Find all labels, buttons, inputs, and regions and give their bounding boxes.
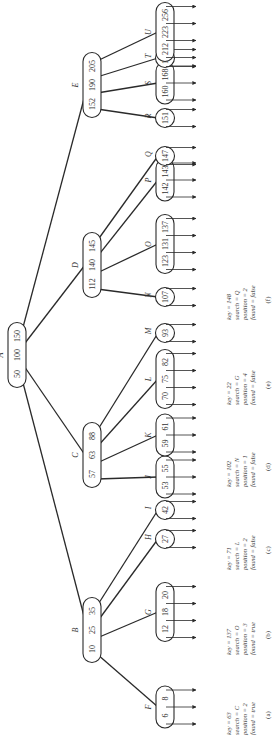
tree-edge	[97, 435, 158, 463]
tree-edge	[22, 95, 85, 331]
b-tree-diagram: 50100150A102535B576388C112140145D1521902…	[0, 0, 274, 747]
tree-edge	[97, 156, 158, 241]
tree-edge	[22, 379, 85, 620]
node-key: 10	[88, 645, 97, 653]
node-D: 112140145D	[71, 233, 101, 298]
node-O: 123131137O	[144, 215, 196, 274]
node-key: 25	[88, 626, 97, 634]
node-key: 93	[161, 329, 170, 337]
node-key: 18	[161, 608, 170, 616]
node-key: 35	[88, 607, 97, 615]
node-N: 107N	[144, 288, 196, 307]
node-key: 131	[161, 238, 170, 250]
node-label: E	[71, 82, 80, 88]
node-key: 137	[161, 221, 170, 233]
node-key: 20	[161, 591, 170, 599]
search-line: key = 71	[225, 547, 232, 570]
node-key: 42	[161, 506, 170, 514]
node-label: K	[144, 432, 153, 439]
node-key: 53	[161, 482, 170, 490]
search-result-b: key = 137search = Oposition = 3found = t…	[225, 622, 272, 656]
node-B: 102535B	[71, 598, 101, 663]
search-line: search = O	[233, 625, 240, 655]
node-key: 70	[161, 392, 170, 400]
node-C: 576388C	[71, 423, 101, 488]
node-key: 160	[161, 86, 170, 98]
node-label: D	[71, 262, 80, 269]
node-key: 82	[161, 358, 170, 366]
node-key: 50	[13, 370, 22, 378]
node-key: 151	[161, 112, 170, 124]
search-line: search = Q	[233, 290, 240, 320]
search-line: key = 22	[225, 381, 232, 405]
node-label: R	[144, 113, 153, 119]
node-key: 256	[161, 9, 170, 21]
node-key: 112	[88, 278, 97, 290]
node-label: J	[144, 475, 153, 479]
node-H: 27H	[144, 530, 196, 549]
search-line: position = 3	[241, 622, 248, 656]
search-line: search = C	[233, 705, 240, 735]
node-J: 5355J	[144, 456, 196, 498]
node-key: 145	[88, 240, 97, 252]
search-result-e: key = 22search = Gposition = 4found = fa…	[225, 370, 272, 406]
search-line: found = false	[249, 535, 256, 570]
node-key: 143	[161, 166, 170, 178]
search-line: search = N	[233, 457, 240, 487]
node-label: H	[144, 533, 153, 541]
node-K: 5961K	[144, 414, 196, 456]
node-key: 27	[161, 535, 170, 543]
search-result-c: key = 71search = Lposition = 2found = fa…	[225, 535, 272, 571]
search-annotations: key = 63search = Cposition = 2found = tr…	[225, 285, 272, 736]
node-label: B	[71, 627, 80, 632]
node-R: 151R	[144, 109, 196, 128]
tree-edge	[97, 58, 158, 77]
search-caption: (c)	[264, 545, 272, 553]
node-S: 160168S	[144, 62, 196, 104]
node-key: 61	[161, 423, 170, 431]
node-G: 121820G	[144, 583, 196, 642]
node-key: 6	[161, 714, 170, 718]
tree-edge	[97, 244, 158, 273]
node-key: 57	[88, 470, 97, 478]
node-key: 12	[161, 625, 170, 633]
search-line: found = true	[249, 622, 256, 655]
search-result-f: key = 148search = Qposition = 2found = f…	[225, 285, 272, 321]
node-A: 50100150A	[0, 323, 26, 388]
node-key: 212	[161, 43, 170, 55]
tree-nodes: 50100150A102535B576388C112140145D1521902…	[0, 3, 196, 729]
search-line: key = 102	[225, 460, 232, 487]
search-line: position = 2	[241, 702, 248, 736]
node-U: 212223256U	[144, 3, 196, 62]
tree-edge	[97, 654, 158, 707]
node-label: G	[144, 609, 153, 615]
tree-edge	[97, 612, 158, 638]
node-key: 8	[161, 697, 170, 701]
node-M: 93M	[144, 324, 196, 343]
node-label: M	[144, 326, 153, 335]
tree-edge	[22, 265, 85, 347]
search-caption: (d)	[264, 462, 272, 471]
search-line: found = false	[249, 370, 256, 405]
node-L: 707582L	[144, 350, 196, 409]
search-result-d: key = 102search = Nposition = 1found = f…	[225, 452, 272, 488]
search-caption: (b)	[264, 630, 272, 639]
node-key: 123	[161, 255, 170, 267]
search-line: position = 4	[241, 372, 248, 406]
node-key: 168	[161, 69, 170, 81]
node-label: A	[0, 352, 5, 358]
search-line: found = true	[249, 702, 256, 735]
search-line: found = false	[249, 285, 256, 320]
node-label: I	[144, 506, 153, 510]
node-key: 63	[88, 451, 97, 459]
node-label: L	[144, 376, 153, 382]
node-key: 100	[13, 349, 22, 361]
search-line: key = 148	[225, 293, 232, 320]
node-key: 140	[88, 259, 97, 271]
node-label: F	[144, 704, 153, 710]
node-label: N	[144, 292, 153, 299]
search-line: found = false	[249, 452, 256, 487]
node-key: 205	[88, 60, 97, 72]
node-key: 147	[161, 150, 170, 162]
node-label: S	[144, 81, 153, 85]
